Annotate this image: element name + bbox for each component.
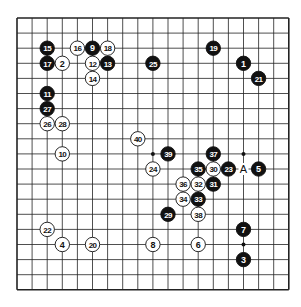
svg-text:4: 4	[60, 240, 65, 250]
svg-text:29: 29	[164, 211, 173, 220]
svg-text:37: 37	[209, 150, 218, 159]
white-stone-32: 32	[191, 177, 205, 191]
point-label-A: A	[240, 163, 248, 175]
svg-text:7: 7	[241, 225, 246, 235]
svg-text:33: 33	[194, 195, 203, 204]
black-stone-29: 29	[161, 207, 175, 221]
svg-text:39: 39	[164, 150, 173, 159]
svg-text:8: 8	[150, 240, 155, 250]
black-stone-33: 33	[191, 192, 205, 206]
white-stone-24: 24	[146, 162, 160, 176]
black-stone-13: 13	[100, 56, 114, 70]
white-stone-26: 26	[40, 117, 54, 131]
white-stone-12: 12	[85, 56, 99, 70]
black-stone-5: 5	[251, 162, 265, 176]
white-stone-8: 8	[146, 237, 160, 251]
svg-text:22: 22	[43, 226, 52, 235]
svg-text:16: 16	[74, 44, 83, 53]
black-stone-21: 21	[251, 71, 265, 85]
svg-text:35: 35	[194, 165, 203, 174]
svg-text:26: 26	[43, 120, 52, 129]
svg-text:10: 10	[58, 150, 67, 159]
white-stone-18: 18	[100, 41, 114, 55]
svg-text:18: 18	[104, 44, 113, 53]
star-point	[242, 243, 246, 247]
svg-text:6: 6	[196, 240, 201, 250]
white-stone-38: 38	[191, 207, 205, 221]
black-stone-3: 3	[236, 252, 250, 266]
svg-text:24: 24	[149, 165, 158, 174]
white-stone-6: 6	[191, 237, 205, 251]
white-stone-16: 16	[70, 41, 84, 55]
black-stone-9: 9	[85, 41, 99, 55]
svg-text:40: 40	[134, 135, 143, 144]
svg-text:5: 5	[256, 164, 261, 174]
svg-text:38: 38	[194, 211, 203, 220]
point-labels: A	[239, 163, 249, 175]
svg-text:19: 19	[209, 44, 218, 53]
white-stone-40: 40	[131, 132, 145, 146]
black-stone-31: 31	[206, 177, 220, 191]
black-stone-27: 27	[40, 101, 54, 115]
svg-text:9: 9	[90, 43, 95, 53]
svg-text:30: 30	[209, 165, 218, 174]
svg-text:28: 28	[58, 120, 67, 129]
svg-text:21: 21	[255, 75, 264, 84]
black-stone-39: 39	[161, 147, 175, 161]
white-stone-2: 2	[55, 56, 69, 70]
svg-text:15: 15	[43, 44, 52, 53]
svg-text:27: 27	[43, 105, 52, 114]
black-stone-11: 11	[40, 86, 54, 100]
svg-text:31: 31	[209, 180, 218, 189]
svg-text:1: 1	[241, 59, 246, 69]
white-stone-30: 30	[206, 162, 220, 176]
black-stone-37: 37	[206, 147, 220, 161]
star-point	[242, 152, 246, 156]
svg-text:13: 13	[104, 60, 113, 69]
svg-text:36: 36	[179, 180, 188, 189]
svg-text:3: 3	[241, 255, 246, 265]
svg-text:23: 23	[225, 165, 234, 174]
white-stone-28: 28	[55, 117, 69, 131]
white-stone-36: 36	[176, 177, 190, 191]
svg-text:2: 2	[60, 59, 65, 69]
svg-text:20: 20	[89, 241, 98, 250]
go-board: 1234567891011121314151617181920212223242…	[0, 0, 301, 307]
black-stone-17: 17	[40, 56, 54, 70]
black-stone-23: 23	[221, 162, 235, 176]
white-stone-10: 10	[55, 147, 69, 161]
svg-text:34: 34	[179, 195, 188, 204]
white-stone-20: 20	[85, 237, 99, 251]
white-stone-34: 34	[176, 192, 190, 206]
svg-text:12: 12	[89, 60, 98, 69]
svg-text:17: 17	[43, 60, 52, 69]
black-stone-7: 7	[236, 222, 250, 236]
star-point	[151, 152, 155, 156]
black-stone-19: 19	[206, 41, 220, 55]
black-stone-1: 1	[236, 56, 250, 70]
white-stone-22: 22	[40, 222, 54, 236]
svg-text:25: 25	[149, 60, 158, 69]
black-stone-35: 35	[191, 162, 205, 176]
svg-text:32: 32	[194, 180, 203, 189]
black-stone-15: 15	[40, 41, 54, 55]
black-stone-25: 25	[146, 56, 160, 70]
svg-text:14: 14	[89, 75, 98, 84]
white-stone-14: 14	[85, 71, 99, 85]
white-stone-4: 4	[55, 237, 69, 251]
svg-text:11: 11	[44, 90, 52, 99]
